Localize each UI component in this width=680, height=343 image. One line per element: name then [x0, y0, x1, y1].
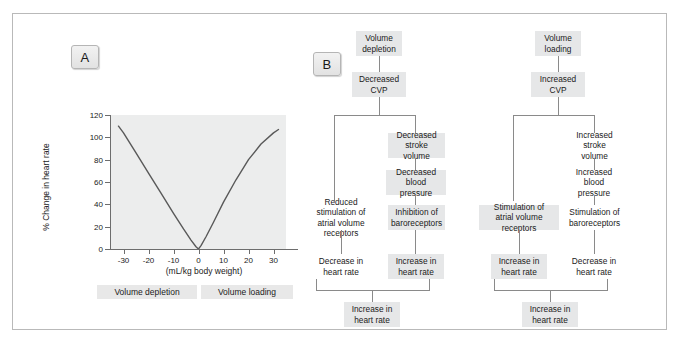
- panel-b-label: B: [313, 52, 341, 76]
- node-decreased-cvp: Decreased CVP: [352, 72, 406, 97]
- connector-split-horizontal: [513, 115, 595, 116]
- connector-start-to-cvp: [379, 56, 380, 72]
- node-volume-loading: Volume loading: [535, 31, 581, 56]
- connector-merge-to-result: [372, 290, 373, 302]
- connector-bp-to-baroreceptors: [415, 195, 416, 205]
- node-result-increase-in-heart-rate: Increase in heart rate: [522, 302, 578, 327]
- connector-merge-left-branch: [494, 279, 495, 290]
- connector-split-horizontal: [334, 115, 416, 116]
- connector-volume-receptors-to-hr: [519, 230, 520, 254]
- connector-volume-receptors-to-hr: [341, 230, 342, 254]
- connector-merge-right-branch: [429, 279, 430, 290]
- connector-merge-left-branch: [316, 279, 317, 290]
- connector-cvp-to-split: [379, 97, 380, 115]
- node-increase-in-heart-rate: Increase in heart rate: [491, 254, 547, 279]
- connector-merge-horizontal: [316, 290, 430, 291]
- node-increase-in-heart-rate: Increase in heart rate: [388, 254, 444, 279]
- node-result-increase-in-heart-rate: Increase in heart rate: [344, 302, 400, 327]
- connector-baroreceptors-to-hr: [415, 230, 416, 254]
- node-stimulation-of-baroreceptors: Stimulation of baroreceptors: [566, 205, 623, 230]
- connector-bp-to-baroreceptors: [594, 195, 595, 205]
- panel-b-flowcharts: B Volume depletion Decreased CVP Decreas…: [13, 14, 680, 343]
- figure-frame: A 020406080100120 -30-20-100102030 % Cha…: [12, 13, 667, 330]
- node-reduced-stimulation-atrial-volume-receptors: Reduced stimulation of atrial volume rec…: [301, 205, 381, 230]
- node-increased-cvp: Increased CVP: [531, 72, 585, 97]
- connector-merge-to-result: [550, 290, 551, 302]
- connector-cvp-to-split: [558, 97, 559, 115]
- connector-split-left-branch: [513, 115, 514, 201]
- connector-baroreceptors-to-hr: [594, 230, 595, 254]
- connector-split-left-branch: [334, 115, 335, 201]
- node-stimulation-atrial-volume-receptors: Stimulation of atrial volume receptors: [479, 205, 559, 230]
- connector-merge-horizontal: [494, 290, 608, 291]
- node-increased-stroke-volume: Increased stroke volume: [566, 133, 623, 158]
- node-volume-depletion: Volume depletion: [356, 31, 402, 56]
- node-increased-blood-pressure: Increased blood pressure: [564, 170, 624, 195]
- connector-start-to-cvp: [558, 56, 559, 72]
- node-inhibition-of-baroreceptors: Inhibition of baroreceptors: [388, 205, 445, 230]
- connector-merge-right-branch: [607, 279, 608, 290]
- node-decrease-in-heart-rate: Decrease in heart rate: [313, 254, 369, 279]
- node-decrease-in-heart-rate: Decrease in heart rate: [566, 254, 622, 279]
- node-decreased-stroke-volume: Decreased stroke volume: [388, 133, 445, 158]
- node-decreased-blood-pressure: Decreased blood pressure: [386, 170, 446, 195]
